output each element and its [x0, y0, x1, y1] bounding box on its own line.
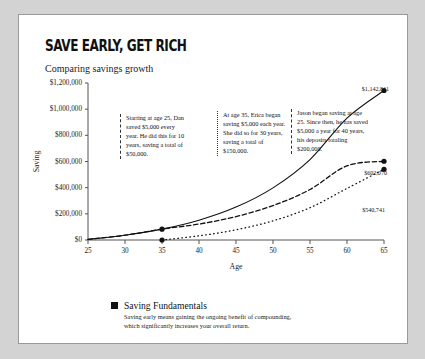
data-point-marker [159, 237, 164, 242]
chart-svg [19, 15, 408, 344]
x-tick-label: 40 [184, 247, 214, 255]
y-tick-label: $800,000 [19, 131, 82, 139]
x-tick-label: 45 [221, 247, 251, 255]
chart-card: SAVE EARLY, GET RICH Comparing savings g… [18, 14, 408, 344]
data-point-marker [381, 159, 386, 164]
annotation-dan: Starting at age 25, Dan saved $5,000 eve… [120, 114, 188, 159]
y-tick-label: $1,000,000 [19, 105, 82, 113]
legend-square-icon [111, 302, 118, 309]
chart-plot-area: $0$200,000$400,000$600,000$800,000$1,000… [19, 15, 408, 344]
y-tick-label: $400,000 [19, 184, 82, 192]
chart-x-axis-title: Age [216, 262, 256, 271]
x-tick-label: 65 [369, 247, 399, 255]
x-tick-label: 60 [332, 247, 362, 255]
footer-body-text: Saving early means gaining the ongoing b… [124, 312, 294, 331]
x-tick-label: 30 [110, 247, 140, 255]
footer-heading-row: Saving Fundamentals [111, 300, 341, 311]
y-tick-label: $600,000 [19, 158, 82, 166]
endpoint-label-jason: $1,142,811 [339, 86, 389, 92]
y-tick-label: $200,000 [19, 210, 82, 218]
x-tick-label: 50 [258, 247, 288, 255]
chart-footer: Saving Fundamentals Saving early means g… [111, 300, 341, 331]
chart-x-ticks [88, 240, 384, 244]
endpoint-label-erica: $540,741 [335, 207, 385, 213]
annotation-jason: Jason began saving at age 25. Since then… [291, 109, 371, 154]
chart-line-erica [162, 169, 384, 240]
y-tick-label: $0 [19, 236, 82, 244]
x-tick-label: 35 [147, 247, 177, 255]
y-tick-label: $1,200,000 [19, 79, 82, 87]
page-background: SAVE EARLY, GET RICH Comparing savings g… [0, 0, 425, 359]
annotation-erica: At age 35, Erica began saving $5,000 eac… [217, 111, 287, 156]
footer-title: Saving Fundamentals [124, 300, 207, 311]
chart-y-axis-title: Saving [32, 136, 41, 186]
x-tick-label: 55 [295, 247, 325, 255]
x-tick-label: 25 [73, 247, 103, 255]
data-point-marker [159, 227, 164, 232]
endpoint-label-dan: $602,070 [337, 170, 387, 176]
